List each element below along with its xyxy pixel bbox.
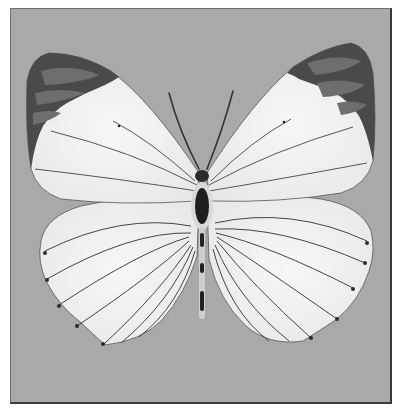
- butterfly-illustration: [11, 9, 392, 404]
- specimen-photo-frame: [10, 8, 392, 404]
- left-hindwing: [40, 197, 199, 346]
- right-hindwing: [207, 194, 373, 342]
- right-forewing: [207, 43, 375, 201]
- left-forewing: [27, 53, 200, 203]
